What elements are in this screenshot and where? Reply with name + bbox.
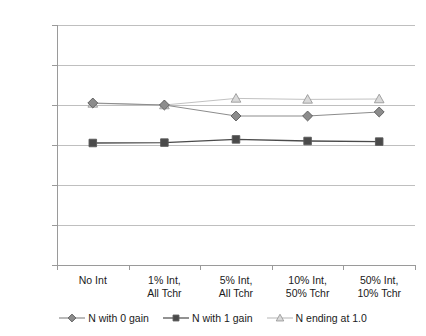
data-point-1-4[interactable] [375,138,383,146]
diamond-marker-icon [59,312,85,324]
data-point-0-2[interactable] [231,111,241,121]
legend-item-0[interactable]: N with 0 gain [59,312,149,324]
x-tick-label-0: No Int [57,274,129,287]
x-tick-label-1: 1% Int,All Tchr [129,274,201,300]
data-point-1-1[interactable] [161,139,169,147]
data-point-1-0[interactable] [89,139,97,147]
data-point-0-3[interactable] [303,111,313,121]
x-tick-label-3: 10% Int,50% Tchr [272,274,344,300]
legend-item-2[interactable]: N ending at 1.0 [267,312,367,324]
line-chart: 1200 1000 800 600 400 200 0 [0,0,426,336]
legend-label-1: N with 1 gain [192,312,253,324]
x-tick-label-2: 5% Int,All Tchr [200,274,272,300]
data-point-0-4[interactable] [374,107,384,117]
data-point-1-2[interactable] [232,136,240,144]
chart-legend: N with 0 gain N with 1 gain N ending at … [0,312,426,324]
data-point-1-3[interactable] [304,137,312,145]
x-tick-label-4: 50% Int,10% Tchr [343,274,415,300]
legend-label-2: N ending at 1.0 [296,312,367,324]
legend-label-0: N with 0 gain [88,312,149,324]
data-point-2-4[interactable] [374,94,384,103]
legend-item-1[interactable]: N with 1 gain [163,312,253,324]
data-point-2-2[interactable] [231,94,241,103]
triangle-marker-icon [267,312,293,324]
square-marker-icon [163,312,189,324]
